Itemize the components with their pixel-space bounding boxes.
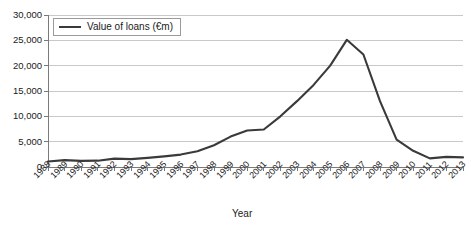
y-axis-tick-label: 15,000 (13, 86, 42, 96)
y-axis-tick-label: 25,000 (13, 35, 42, 45)
x-axis-title: Year (232, 208, 252, 219)
y-axis-tick-label: 5,000 (18, 137, 42, 147)
gridlines (48, 15, 463, 167)
y-axis-tick-label: 30,000 (13, 10, 42, 20)
y-axis-tick-label: 10,000 (13, 111, 42, 121)
line-chart: 05,00010,00015,00020,00025,00030,000 198… (0, 0, 471, 229)
y-axis-ticks (44, 15, 48, 167)
legend-label: Value of loans (€m) (87, 21, 173, 32)
chart-legend: Value of loans (€m) (53, 18, 181, 36)
y-axis-tick-label: 20,000 (13, 61, 42, 71)
data-series-value-of-loans (48, 40, 463, 162)
legend-line-swatch (59, 26, 81, 28)
